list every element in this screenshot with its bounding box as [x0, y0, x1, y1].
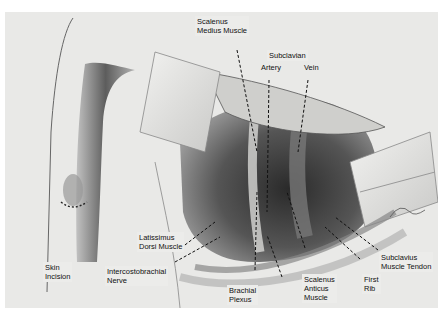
- subclavian-vein-shape: [297, 122, 305, 237]
- axilla-shadow: [76, 63, 135, 262]
- label-subclavius-muscle-tendon: Subclavius Muscle Tendon: [379, 252, 433, 272]
- label-skin-incision: Skin Incision: [43, 262, 72, 282]
- incision-stipple: [63, 174, 83, 206]
- label-brachial-plexus: Brachial Plexus: [227, 285, 258, 305]
- label-vein: Vein: [302, 62, 321, 73]
- illustration-panel: Scalenus Medius Muscle Subclavian Artery…: [5, 12, 438, 308]
- label-latissimus-dorsi: Latissimus Dorsi Muscle: [137, 232, 184, 252]
- label-scalenus-medius: Scalenus Medius Muscle: [195, 16, 249, 36]
- label-subclavian: Subclavian: [267, 50, 308, 61]
- arm-outline: [47, 18, 73, 292]
- label-scalenus-anticus: Scalenus Anticus Muscle: [302, 274, 337, 303]
- label-first-rib: First Rib: [362, 274, 381, 294]
- label-artery: Artery: [259, 62, 283, 73]
- retractor-left: [140, 52, 220, 152]
- label-intercostobrachial-nerve: Intercostobrachial Nerve: [105, 266, 168, 286]
